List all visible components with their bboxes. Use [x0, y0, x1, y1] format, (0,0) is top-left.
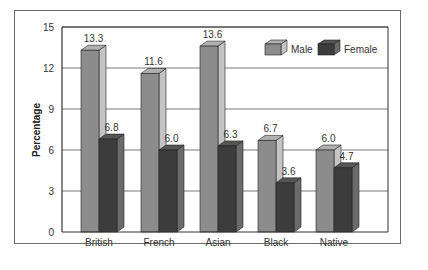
y-tick-label: 12: [43, 63, 55, 74]
value-label: 6.0: [165, 133, 179, 144]
value-label: 6.3: [224, 129, 238, 140]
y-axis-label: Percentage: [31, 103, 42, 157]
legend: MaleFemale: [265, 40, 378, 55]
x-category-label: Asian: [205, 237, 230, 248]
y-tick-label: 3: [48, 186, 54, 197]
value-label: 6.8: [105, 122, 119, 133]
y-tick-label: 9: [48, 104, 54, 115]
y-tick-label: 6: [48, 145, 54, 156]
bar-female: 6.0: [159, 133, 184, 232]
value-label: 4.7: [340, 151, 354, 162]
legend-label: Male: [291, 44, 313, 55]
value-label: 13.6: [203, 29, 223, 40]
value-label: 6.0: [322, 133, 336, 144]
legend-item-male: Male: [265, 40, 313, 55]
bar-female: 6.8: [99, 122, 124, 232]
bar-female: 6.3: [218, 129, 243, 232]
x-category-label: Native: [320, 237, 349, 248]
bars: 13.36.811.66.013.66.36.73.66.04.7: [81, 29, 359, 232]
x-category-label: Black: [264, 237, 289, 248]
y-tick-label: 15: [43, 22, 55, 33]
bar-chart: 13.36.811.66.013.66.36.73.66.04.7 036912…: [0, 0, 428, 270]
x-category-label: French: [143, 237, 174, 248]
value-label: 3.6: [282, 166, 296, 177]
legend-item-female: Female: [318, 40, 378, 55]
value-label: 6.7: [264, 123, 278, 134]
legend-label: Female: [344, 44, 378, 55]
value-label: 13.3: [84, 33, 104, 44]
x-category-label: British: [85, 237, 113, 248]
value-label: 11.6: [144, 56, 163, 67]
y-tick-label: 0: [48, 227, 54, 238]
